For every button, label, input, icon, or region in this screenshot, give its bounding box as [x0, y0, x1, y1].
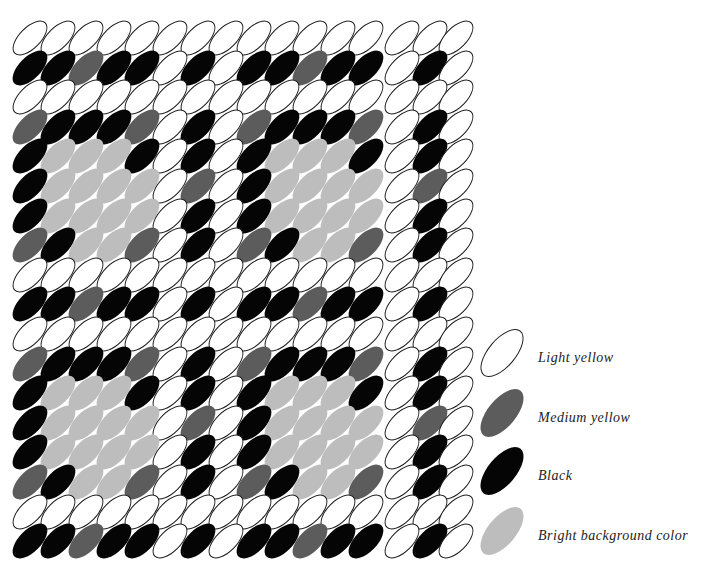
legend-label: Black: [538, 468, 572, 484]
legend-label: Light yellow: [538, 350, 614, 366]
medium-yellow-ellipse-icon: [473, 382, 532, 444]
black-ellipse-icon: [473, 440, 532, 502]
legend: Light yellow Medium yellow Black Bright …: [480, 320, 713, 570]
legend-item-light-yellow: Light yellow: [480, 320, 713, 380]
bright-background-ellipse-icon: [473, 500, 532, 562]
ellipse-pattern-grid: [0, 0, 480, 584]
legend-item-bright-background: Bright background color: [480, 498, 713, 558]
legend-label: Bright background color: [538, 528, 688, 544]
legend-item-medium-yellow: Medium yellow: [480, 380, 713, 440]
legend-item-black: Black: [480, 438, 713, 498]
light-yellow-ellipse-icon: [473, 322, 532, 384]
legend-label: Medium yellow: [538, 410, 630, 426]
